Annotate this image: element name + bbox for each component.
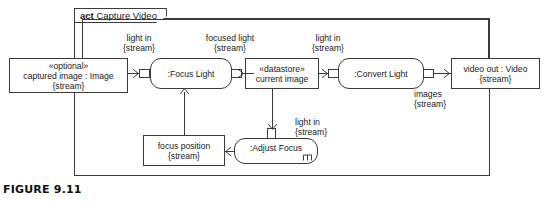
convert-light-output-pin — [423, 69, 434, 78]
video-out-rate: {stream} — [479, 74, 511, 84]
captured-image-stereotype: «optional» — [49, 61, 89, 71]
captured-image-rate: {stream} — [52, 81, 84, 91]
edge-label-light-in-2-rate: {stream} — [288, 43, 368, 53]
convert-light-name: :Convert Light — [354, 69, 408, 79]
feedback-loop-left-segment — [82, 19, 83, 58]
datastore-stereotype: «datastore» — [259, 64, 304, 74]
edge-label-light-in-1-rate: {stream} — [99, 43, 179, 53]
edge-label-light-in-1: light in {stream} — [99, 33, 179, 53]
edge-label-light-in-1-name: light in — [99, 33, 179, 43]
focus-light-input-pin — [139, 69, 150, 78]
arrowhead-adjust-focus-to-focus-position — [224, 146, 235, 157]
focus-light-name: :Focus Light — [168, 69, 215, 79]
uml-activity-diagram: act Capture Video light in {stream} focu… — [0, 0, 548, 204]
edge-label-light-in-3-name: light in — [295, 117, 355, 127]
action-node-convert-light: :Convert Light — [338, 58, 424, 89]
action-node-focus-light: :Focus Light — [150, 58, 232, 89]
edge-label-focused-light-name: focused light — [186, 33, 274, 43]
convert-light-input-pin — [328, 69, 339, 78]
edge-label-focused-light-rate: {stream} — [186, 43, 274, 53]
captured-image-name: captured image : Image — [23, 71, 113, 81]
arrowhead-focus-position-to-focus-light — [179, 87, 190, 98]
focus-position-rate: {stream} — [168, 151, 200, 161]
object-node-focus-position: focus position {stream} — [143, 135, 225, 166]
edge-label-light-in-3: light in {stream} — [295, 117, 355, 137]
activity-frame-header: act Capture Video — [74, 8, 167, 23]
edge-label-light-in-3-rate: {stream} — [295, 127, 355, 137]
object-node-video-out: video out : Video {stream} — [451, 58, 540, 89]
edge-label-light-in-2: light in {stream} — [288, 33, 368, 53]
video-out-name: video out : Video — [464, 64, 528, 74]
edge-label-light-in-2-name: light in — [288, 33, 368, 43]
arrowhead-convert-light-to-video-out — [440, 68, 451, 79]
feedback-loop-right-segment — [488, 19, 489, 58]
arrowhead-datastore-to-adjust-focus — [267, 120, 278, 131]
arrowhead-focus-light-to-datastore — [234, 68, 245, 79]
feedback-loop-top-segment — [82, 19, 489, 20]
edge-label-images: images {stream} — [414, 89, 474, 109]
arrowhead-datastore-to-convert-light — [318, 68, 329, 79]
edge-label-images-rate: {stream} — [414, 99, 474, 109]
object-node-captured-image: «optional» captured image : Image {strea… — [9, 58, 128, 93]
edge-label-focused-light: focused light {stream} — [186, 33, 274, 53]
flow-focus-position-to-focus-light — [184, 92, 185, 135]
object-node-datastore-current-image: «datastore» current image — [245, 58, 319, 89]
edge-label-images-name: images — [414, 89, 474, 99]
datastore-name: current image — [256, 74, 309, 84]
focus-position-name: focus position — [158, 141, 211, 151]
figure-caption: FIGURE 9.11 — [3, 183, 82, 196]
arrowhead-captured-image-to-focus-light — [129, 68, 140, 79]
rake-icon — [303, 152, 312, 161]
adjust-focus-name: :Adjust Focus — [250, 143, 302, 153]
